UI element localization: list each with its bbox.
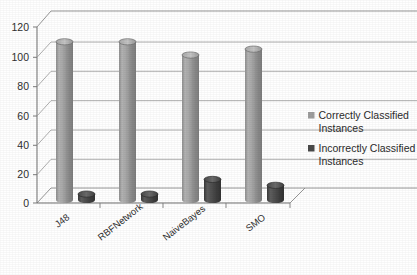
bar-naivebayes-correct[interactable] <box>182 52 199 203</box>
bar-j48-correct[interactable] <box>56 39 73 203</box>
legend-item-incorrect[interactable]: Incorrectly Classified Instances <box>308 142 416 167</box>
bar-j48-incorrect[interactable] <box>78 191 95 203</box>
y-tick-label-120: 120 <box>11 21 29 33</box>
bar-group-j48 <box>56 39 95 203</box>
y-tick-label-40: 40 <box>17 139 29 151</box>
backwall-top-face <box>37 11 417 27</box>
bar-naivebayes-incorrect[interactable] <box>204 176 221 203</box>
bar-group-naivebayes <box>182 52 221 203</box>
legend-label-correct-line1: Correctly Classified <box>319 109 410 121</box>
chart-legend: Correctly Classified Instances Incorrect… <box>308 109 416 167</box>
bar-smo-incorrect[interactable] <box>267 182 284 203</box>
y-tick-label-60: 60 <box>17 110 29 122</box>
x-label-rbfnetwork: RBFNetwork <box>95 201 144 243</box>
legend-swatch-correct <box>308 112 315 119</box>
legend-label-incorrect-line1: Incorrectly Classified <box>319 142 416 154</box>
legend-label-incorrect-line2: Instances <box>319 155 364 167</box>
x-label-j48: J48 <box>52 211 71 229</box>
y-tick-label-20: 20 <box>17 168 29 180</box>
y-axis-ticks <box>33 27 37 203</box>
bar-chart: 0 20 40 60 80 100 120 <box>0 0 417 275</box>
x-label-smo: SMO <box>243 212 267 234</box>
chart-container: 0 20 40 60 80 100 120 <box>0 0 417 275</box>
y-tick-label-100: 100 <box>11 51 29 63</box>
legend-label-correct-line2: Instances <box>319 122 364 134</box>
plot-3d-frame <box>37 11 417 203</box>
bar-rbfnetwork-incorrect[interactable] <box>141 191 158 203</box>
y-tick-label-80: 80 <box>17 80 29 92</box>
y-tick-label-0: 0 <box>23 197 29 209</box>
bar-smo-correct[interactable] <box>245 46 262 203</box>
legend-swatch-incorrect <box>308 145 315 152</box>
bar-rbfnetwork-correct[interactable] <box>119 39 136 203</box>
bar-group-smo <box>245 46 284 203</box>
x-axis-category-labels: J48 RBFNetwork NaiveBayes SMO <box>52 201 267 243</box>
x-label-naivebayes: NaiveBayes <box>160 203 207 243</box>
y-axis-tick-labels: 0 20 40 60 80 100 120 <box>11 21 29 209</box>
bar-group-rbfnetwork <box>119 39 158 203</box>
